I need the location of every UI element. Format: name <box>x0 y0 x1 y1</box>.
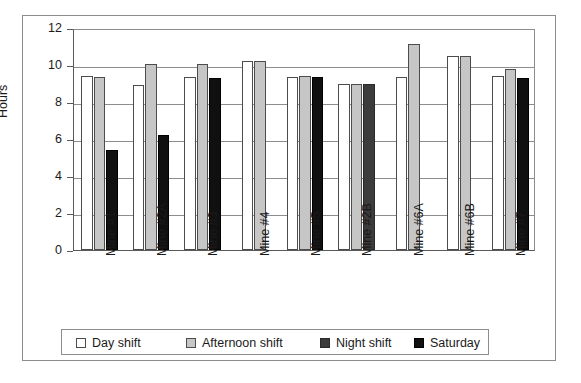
y-tick-label-2: 2 <box>22 207 62 219</box>
legend-label: Saturday <box>430 336 480 350</box>
x-tick-label: Mine #2A <box>155 203 169 256</box>
legend: Day shiftAfternoon shiftNight shiftSatur… <box>61 329 489 355</box>
x-tick-label: Mine #3 <box>206 212 220 256</box>
bar-day[interactable] <box>184 77 196 250</box>
legend-label: Afternoon shift <box>202 336 283 350</box>
bar-day[interactable] <box>396 77 408 250</box>
x-tick-label: Mine #6A <box>412 203 426 256</box>
bar-day[interactable] <box>338 84 350 250</box>
x-tick-label: Mine #1 <box>104 212 118 256</box>
bar-day[interactable] <box>492 76 504 250</box>
x-tick-label: Mine #2B <box>360 203 374 256</box>
saturday-swatch <box>414 338 424 348</box>
y-tick-label-8: 8 <box>22 96 62 108</box>
bar-day[interactable] <box>242 61 254 250</box>
x-tick-label: Mine #7 <box>514 212 528 256</box>
bar-chart-figure: Hours 024681012 Mine #1Mine #2AMine #3Mi… <box>0 0 581 383</box>
x-tick-label: Mine #4 <box>258 212 272 256</box>
y-tick-label-6: 6 <box>22 133 62 145</box>
bar-day[interactable] <box>447 56 459 250</box>
afternoon-shift-swatch <box>186 338 196 348</box>
day-shift-swatch <box>76 338 86 348</box>
y-tick-label-4: 4 <box>22 170 62 182</box>
y-tick-label-12: 12 <box>22 22 62 34</box>
y-tick-0 <box>67 251 73 252</box>
bar-day[interactable] <box>133 85 145 250</box>
legend-item[interactable]: Day shift <box>76 335 141 351</box>
night-shift-swatch <box>320 338 330 348</box>
y-axis-title: Hours <box>0 85 10 118</box>
legend-label: Day shift <box>92 336 141 350</box>
legend-item[interactable]: Saturday <box>414 335 480 351</box>
x-tick-label: Mine #5 <box>309 212 323 256</box>
legend-item[interactable]: Afternoon shift <box>186 335 283 351</box>
x-tick-label: Mine #6B <box>463 203 477 256</box>
bar-day[interactable] <box>81 76 93 250</box>
bar-day[interactable] <box>287 77 299 250</box>
y-tick-label-0: 0 <box>22 244 62 256</box>
legend-item[interactable]: Night shift <box>320 335 392 351</box>
y-tick-label-10: 10 <box>22 59 62 71</box>
legend-label: Night shift <box>336 336 392 350</box>
